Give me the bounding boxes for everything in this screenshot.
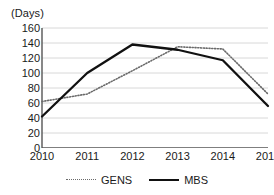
y-axis-tick-label: 80 bbox=[0, 83, 40, 94]
x-axis-tick-labels: 201020112012201320142015 bbox=[0, 150, 274, 166]
y-axis-tick-label: 100 bbox=[0, 68, 40, 79]
legend-item-gens[interactable]: GENS bbox=[66, 174, 132, 186]
x-axis-tick-label: 2012 bbox=[120, 150, 144, 162]
legend-label: GENS bbox=[101, 174, 132, 186]
plot-area-wrapper: 160140120100806040200 bbox=[0, 24, 274, 148]
legend-item-mbs[interactable]: MBS bbox=[149, 174, 208, 186]
x-axis-tick-label: 2013 bbox=[165, 150, 189, 162]
y-axis-tick-label: 160 bbox=[0, 23, 40, 34]
series-line-mbs bbox=[42, 45, 268, 117]
y-axis-tick-labels: 160140120100806040200 bbox=[0, 24, 40, 144]
x-axis-tick-label: 2015 bbox=[256, 150, 274, 162]
y-axis-tick-label: 120 bbox=[0, 53, 40, 64]
series-line-gens bbox=[42, 47, 268, 102]
y-axis-unit-title: (Days) bbox=[11, 7, 44, 19]
chart-legend: GENSMBS bbox=[0, 170, 274, 190]
x-axis-tick-label: 2011 bbox=[75, 150, 99, 162]
plot-canvas bbox=[0, 24, 274, 148]
y-axis-tick-label: 40 bbox=[0, 113, 40, 124]
x-axis-tick-label: 2014 bbox=[211, 150, 235, 162]
legend-swatch-solid-line-icon bbox=[149, 176, 179, 184]
y-axis-tick-label: 140 bbox=[0, 38, 40, 49]
y-axis-tick-label: 20 bbox=[0, 128, 40, 139]
x-axis-tick-label: 2010 bbox=[30, 150, 54, 162]
line-chart: (Days) 160140120100806040200 20102011201… bbox=[0, 0, 274, 195]
y-axis-tick-label: 60 bbox=[0, 98, 40, 109]
legend-swatch-dotted-line-icon bbox=[66, 176, 96, 184]
legend-label: MBS bbox=[184, 174, 208, 186]
